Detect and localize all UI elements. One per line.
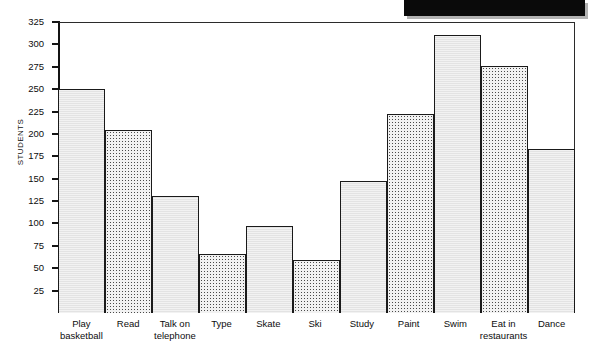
bar-slot [246, 22, 293, 313]
y-axis-tick-label: 100 [28, 217, 44, 229]
y-axis-tick-label: 275 [28, 61, 44, 73]
x-axis-tick-label: Swim [432, 318, 479, 341]
x-axis-tick-label: Paint [385, 318, 432, 341]
y-axis-tick-label: 50 [33, 262, 44, 274]
x-axis-tick-label-line: Dance [529, 318, 574, 330]
x-axis-tick-label: Talk ontelephone [152, 318, 199, 341]
bar[interactable] [434, 35, 481, 313]
bar-chart: STUDENTS 3253002752502252001751501251007… [0, 0, 589, 356]
x-axis-tick-label: Type [198, 318, 245, 341]
x-axis-tick-label: Playbasketball [58, 318, 105, 341]
y-axis-tick-label: 225 [28, 106, 44, 118]
y-axis-tick-label: 325 [28, 16, 44, 28]
y-axis-tick-label: 75 [33, 240, 44, 252]
x-axis-tick-label: Read [105, 318, 152, 341]
x-axis-tick-label: Skate [245, 318, 292, 341]
x-axis-tick-label-line: Swim [433, 318, 478, 330]
y-axis-tick-label: 25 [33, 285, 44, 297]
bar[interactable] [387, 114, 434, 313]
x-axis-tick-label-line: Play [59, 318, 104, 330]
bar-slot [340, 22, 387, 313]
x-axis-tick-label: Dance [528, 318, 575, 341]
bar-slot [293, 22, 340, 313]
bar-slot [58, 22, 105, 313]
x-axis-tick-label: Study [339, 318, 386, 341]
x-axis-tick-label-line: Eat in [480, 318, 528, 330]
x-axis-tick-label-line: Type [199, 318, 244, 330]
x-axis-tick-label-line: Study [340, 318, 385, 330]
y-axis-tick-label: 300 [28, 38, 44, 50]
bar-slot [152, 22, 199, 313]
bar[interactable] [105, 130, 152, 313]
bar-slot [434, 22, 481, 313]
x-axis-tick-label: Ski [292, 318, 339, 341]
x-axis-label-group: PlaybasketballReadTalk ontelephoneTypeSk… [58, 318, 575, 341]
bar[interactable] [199, 254, 246, 313]
y-axis-tick-label: 250 [28, 83, 44, 95]
bar[interactable] [293, 260, 340, 313]
bar-slot [387, 22, 434, 313]
x-axis-tick-label-line: Talk on [153, 318, 198, 330]
bar[interactable] [528, 149, 575, 313]
x-axis-tick-label-line: Ski [293, 318, 338, 330]
x-axis-tick-label-line: restaurants [480, 330, 528, 342]
bar-slot [481, 22, 528, 313]
bar[interactable] [58, 89, 105, 313]
x-axis-tick-label: Eat inrestaurants [479, 318, 529, 341]
y-axis-tick-label: 125 [28, 195, 44, 207]
y-axis-tick-label: 175 [28, 150, 44, 162]
y-axis-tick-group: 325300275250225200175150125100755025 [0, 0, 58, 356]
x-axis-tick-label-line: Read [106, 318, 151, 330]
bar-slot [528, 22, 575, 313]
y-axis-tick-label: 150 [28, 173, 44, 185]
bar-slot [199, 22, 246, 313]
x-axis-tick-label-line: Paint [386, 318, 431, 330]
x-axis-tick-label-line: basketball [59, 330, 104, 342]
bar[interactable] [481, 66, 528, 313]
bar[interactable] [340, 181, 387, 313]
bar[interactable] [246, 226, 293, 313]
x-axis-tick-label-line: telephone [153, 330, 198, 342]
x-axis-tick-label-line: Skate [246, 318, 291, 330]
bar[interactable] [152, 196, 199, 313]
bar-slot [105, 22, 152, 313]
y-axis-tick-label: 200 [28, 128, 44, 140]
bar-group [58, 22, 575, 313]
